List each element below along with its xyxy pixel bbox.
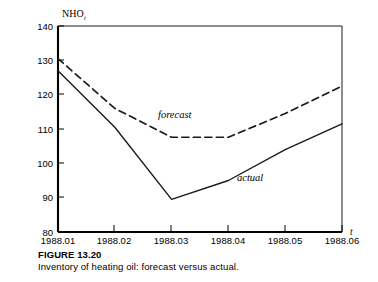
series-label-forecast: forecast	[158, 109, 193, 120]
chart-plot-area: 140 130 120 110 100 90 80 NHO t	[0, 0, 378, 246]
chart-frame	[58, 26, 342, 232]
figure-caption-title: FIGURE 13.20	[38, 249, 368, 261]
data-series-group	[58, 59, 342, 200]
y-axis-title-text: NHO	[62, 8, 84, 19]
y-axis-title: NHO t	[62, 8, 86, 21]
x-tick-label-1: 1988.01	[41, 235, 75, 246]
y-tick-label-130: 130	[37, 55, 53, 66]
figure-container: 140 130 120 110 100 90 80 NHO t	[0, 0, 378, 282]
y-tick-label-140: 140	[37, 21, 53, 32]
x-axis-title-text: t	[350, 227, 353, 237]
series-line-forecast	[58, 59, 342, 138]
series-annotations: forecast actual	[158, 109, 263, 183]
y-axis-title-subscript: t	[84, 14, 86, 21]
series-label-actual: actual	[237, 172, 263, 183]
x-axis-tick-labels: 1988.01 1988.02 1988.03 1988.04 1988.05 …	[41, 235, 359, 246]
x-tick-label-4: 1988.04	[211, 235, 245, 246]
x-tick-label-6: 1988.06	[325, 235, 359, 246]
line-chart-svg: 140 130 120 110 100 90 80 NHO t	[0, 0, 378, 246]
y-tick-label-90: 90	[42, 192, 53, 203]
y-axis-tick-labels: 140 130 120 110 100 90 80	[37, 21, 53, 238]
x-tick-label-3: 1988.03	[154, 235, 188, 246]
y-tick-label-110: 110	[38, 124, 53, 135]
figure-caption-text: Inventory of heating oil: forecast versu…	[38, 261, 368, 273]
figure-caption: FIGURE 13.20 Inventory of heating oil: f…	[38, 249, 368, 273]
x-tick-label-5: 1988.05	[268, 235, 302, 246]
y-tick-label-120: 120	[37, 89, 53, 100]
x-tick-label-2: 1988.02	[97, 235, 131, 246]
y-tick-label-100: 100	[37, 158, 53, 169]
series-line-actual	[58, 71, 342, 200]
